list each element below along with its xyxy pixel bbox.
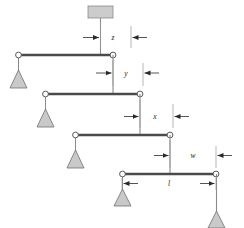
joint-1-left	[16, 52, 22, 58]
dimension-label-z: z	[111, 33, 115, 42]
dimension-x-group: x	[124, 100, 189, 128]
dimension-y-group: y	[96, 60, 159, 86]
support-triangle-1	[10, 70, 27, 88]
joint-3-left	[73, 132, 79, 138]
beam-linkage-diagram: z y	[0, 0, 244, 228]
dimension-label-x: x	[152, 112, 157, 121]
dimension-l-group: l	[122, 178, 216, 190]
dimension-label-w: w	[190, 151, 195, 160]
support-triangle-3	[67, 150, 84, 168]
beam-3-group	[67, 132, 173, 174]
weight-block	[88, 6, 113, 18]
dimension-w-group: w	[154, 140, 232, 168]
support-triangle-4	[114, 189, 131, 206]
dimension-label-l: l	[168, 179, 170, 188]
support-triangle-2	[37, 109, 54, 127]
dimension-label-y: y	[123, 69, 128, 78]
joint-2-left	[43, 91, 49, 97]
support-triangle-5	[208, 211, 225, 228]
dimension-z-group: z	[83, 22, 147, 48]
beam-2-group	[37, 91, 143, 135]
joint-4-left	[120, 171, 126, 177]
figure-canvas: z y	[0, 0, 244, 228]
